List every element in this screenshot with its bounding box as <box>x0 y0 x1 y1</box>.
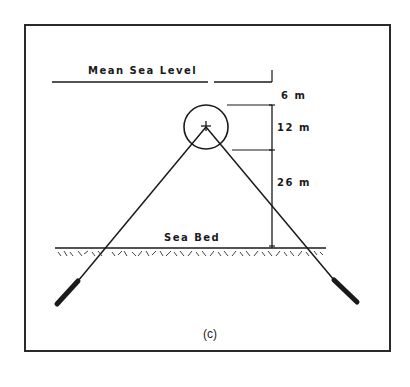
dimension-12m: 12 m <box>277 122 311 133</box>
dimension-lines: 6 m 12 m 26 m <box>227 90 311 248</box>
sea-bed-hatching <box>58 251 323 256</box>
left-anchor <box>57 281 78 304</box>
figure-caption: (c) <box>203 327 217 341</box>
mooring-cables <box>57 127 357 304</box>
mooring-diagram: Mean Sea Level 6 m 12 m 26 m Sea Bed <box>0 0 410 387</box>
sea-bed-label: Sea Bed <box>164 232 220 243</box>
right-anchor <box>334 280 357 302</box>
sea-level: Mean Sea Level <box>52 65 272 82</box>
left-cable <box>78 127 206 281</box>
sea-bed: Sea Bed <box>55 232 326 256</box>
dimension-6m: 6 m <box>281 90 306 101</box>
sea-level-label: Mean Sea Level <box>88 65 197 76</box>
dimension-26m: 26 m <box>277 177 311 188</box>
figure-frame <box>25 25 390 351</box>
